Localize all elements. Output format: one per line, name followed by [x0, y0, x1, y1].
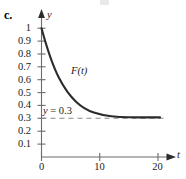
asymptote-label: y = 0.3 — [43, 106, 72, 117]
curve-label: F(t) — [71, 66, 87, 77]
x-tick-label-0: 0 — [32, 162, 51, 173]
y-tick-label-0.5: 0.5 — [6, 88, 31, 99]
x-axis-arrow — [167, 153, 177, 160]
figure-panel-c: c. — [0, 0, 186, 179]
x-tick-label-10: 10 — [90, 162, 109, 173]
y-tick-label-0.4: 0.4 — [6, 100, 31, 111]
y-tick-label-0.8: 0.8 — [6, 49, 31, 60]
asymptote-label-value: = 0.3 — [48, 105, 72, 116]
y-tick-label-0.9: 0.9 — [6, 36, 31, 47]
y-tick-label-0.3: 0.3 — [6, 113, 31, 124]
y-tick-label-1: 1 — [6, 23, 31, 34]
y-axis-arrow — [38, 9, 45, 18]
x-tick-label-20: 20 — [148, 162, 167, 173]
y-tick-label-0.7: 0.7 — [6, 62, 31, 73]
y-tick-label-0.1: 0.1 — [6, 139, 31, 150]
y-tick-label-0.2: 0.2 — [6, 126, 31, 137]
y-axis-label: y — [47, 10, 52, 21]
y-tick-label-0.6: 0.6 — [6, 75, 31, 86]
x-axis-label: t — [177, 150, 180, 161]
